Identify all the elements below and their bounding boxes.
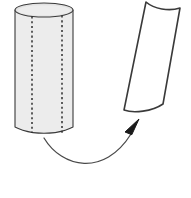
cylinder-body [15, 10, 73, 133]
flat-sheet-shape [124, 2, 180, 112]
unroll-arrow-head-icon [125, 119, 139, 135]
cylinder-unroll-diagram [0, 0, 191, 198]
flat-sheet-group [124, 2, 180, 112]
diagram-canvas [0, 0, 191, 198]
cylinder-group [15, 3, 73, 133]
cylinder-top-face-highlight [18, 5, 71, 15]
unroll-arrow-shaft [44, 134, 131, 163]
